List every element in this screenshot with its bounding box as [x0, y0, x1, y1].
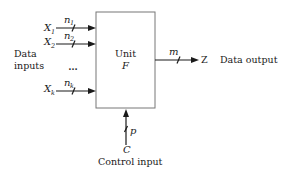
input-x1-sub: 1 [51, 28, 55, 36]
ellipsis: … [68, 61, 78, 72]
control-input: p C Control input [98, 109, 163, 167]
input-xk-width-sub: k [70, 82, 74, 90]
unit-label: Unit [115, 48, 136, 59]
control-name: C [123, 144, 131, 155]
arrowhead-icon [191, 57, 199, 63]
data-inputs-label-line1: Data [14, 48, 37, 59]
input-xk: X k n k [43, 77, 96, 97]
control-input-label: Control input [98, 156, 163, 167]
control-width: p [130, 125, 137, 136]
data-inputs-label-line2: inputs [14, 60, 44, 71]
unit-function-label: F [121, 60, 130, 71]
arrowhead-icon [88, 41, 96, 47]
arrowhead-icon [88, 88, 96, 94]
input-xk-sub: k [51, 89, 55, 97]
arrowhead-icon [88, 25, 96, 31]
data-output-label: Data output [220, 54, 278, 65]
input-x2-width-sub: 2 [69, 35, 74, 43]
block-diagram: Unit F Data inputs X 1 n 1 X 2 n 2 … X k… [0, 0, 283, 170]
input-x2-sub: 2 [50, 42, 55, 50]
arrowhead-icon [123, 109, 129, 117]
input-x1-width-sub: 1 [70, 19, 74, 27]
output-width: m [169, 46, 178, 57]
output-z: m Z Data output [155, 46, 278, 65]
output-name: Z [201, 54, 208, 65]
